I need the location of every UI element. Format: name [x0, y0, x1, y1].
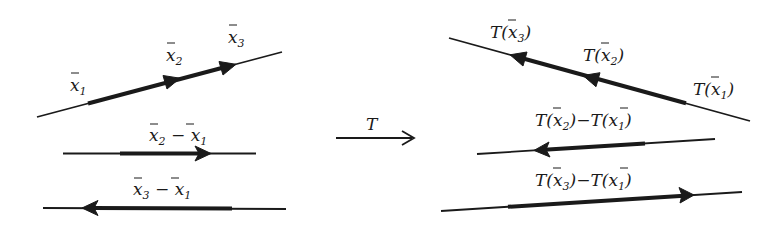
vector-tx2-minus-tx1 [477, 139, 715, 157]
svg-text:x2: x2 [166, 45, 183, 68]
svg-text:T(x2)−T(x1): T(x2)−T(x1) [535, 110, 632, 133]
right-panel: T(x3) T(x2) T(x1) T(x2)−T(x1) [441, 20, 750, 211]
vector-tx3-minus-tx1 [441, 188, 742, 212]
label-tx2-minus-tx1: T(x2)−T(x1) [535, 108, 632, 133]
label-x3-minus-x1: x3 − x1 [133, 178, 191, 202]
linear-transform-diagram: x1 x2 x3 x2 − x1 [0, 0, 784, 231]
label-x2-minus-x1: x2 − x1 [149, 124, 207, 148]
label-t-x2: T(x2) [583, 43, 624, 68]
label-t-x1: T(x1) [693, 77, 734, 102]
svg-text:T(x1): T(x1) [693, 79, 734, 102]
transform-arrow: T [336, 114, 414, 145]
vector-x2-minus-x1 [63, 146, 256, 161]
label-tx3-minus-tx1: T(x3)−T(x1) [535, 168, 632, 193]
label-x2: x2 [166, 43, 183, 68]
svg-text:x1: x1 [70, 75, 87, 98]
arrow-head-x2 [163, 76, 180, 90]
svg-text:x3: x3 [228, 27, 245, 50]
arrow-head-tx2 [583, 73, 600, 87]
svg-text:x3 − x1: x3 − x1 [133, 179, 191, 202]
arrow-head-x3 [219, 62, 236, 76]
svg-text:x2 − x1: x2 − x1 [149, 125, 207, 148]
left-panel: x1 x2 x3 x2 − x1 [37, 25, 286, 216]
arrow-head-tx3 [510, 52, 527, 66]
svg-text:T(x2): T(x2) [583, 45, 624, 68]
label-x3: x3 [228, 25, 245, 50]
label-x1: x1 [70, 73, 87, 98]
transform-label: T [366, 114, 379, 134]
vector-x3-minus-x1 [43, 201, 286, 216]
svg-text:T(x3)−T(x1): T(x3)−T(x1) [535, 170, 632, 193]
svg-text:T(x3): T(x3) [490, 22, 531, 45]
label-t-x3: T(x3) [490, 20, 531, 45]
